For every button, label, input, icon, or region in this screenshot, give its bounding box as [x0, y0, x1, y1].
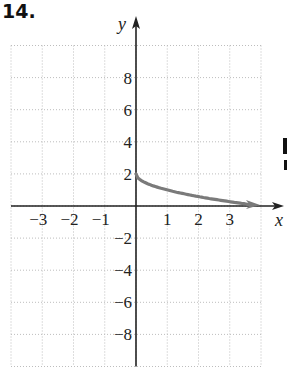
x-tick-label: 2 — [194, 210, 203, 229]
x-tick-label: 3 — [226, 210, 235, 229]
x-axis-label: x — [274, 210, 283, 230]
y-tick-label: −8 — [114, 325, 132, 344]
x-tick-label: −3 — [29, 210, 47, 229]
cropped-glyph-fragment — [281, 138, 287, 172]
y-tick-label: −6 — [114, 293, 132, 312]
y-tick-label: −4 — [114, 261, 133, 280]
y-tick-label: −2 — [114, 229, 132, 248]
y-tick-label: 4 — [124, 133, 133, 152]
y-axis-label: y — [116, 14, 126, 34]
x-tick-label: 1 — [163, 210, 172, 229]
axes: xy — [11, 14, 284, 367]
y-tick-label: 8 — [124, 69, 133, 88]
y-tick-label: 2 — [124, 165, 133, 184]
x-tick-label: −2 — [60, 210, 78, 229]
curve — [136, 174, 260, 209]
curve-line — [136, 174, 252, 205]
graph: xy −3−2−11238642−2−4−6−8 — [0, 0, 287, 372]
x-tick-label: −1 — [92, 210, 110, 229]
y-tick-label: 6 — [124, 101, 133, 120]
